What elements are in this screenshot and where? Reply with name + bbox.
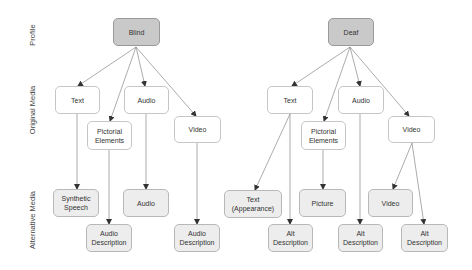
node-d-audio-ad: Alt Description: [338, 224, 383, 252]
node-b-synth: Synthetic Speech: [53, 189, 99, 217]
node-label: Deaf: [344, 28, 359, 37]
node-label: Video: [403, 125, 421, 134]
node-d-text-ad: Alt Description: [268, 224, 313, 252]
node-d-video-ad: Alt Description: [401, 224, 448, 252]
node-label: Blind: [129, 28, 145, 37]
node-label: Text: [71, 96, 84, 105]
node-b-pict: Pictorial Elements: [87, 121, 132, 150]
node-deaf: Deaf: [328, 18, 374, 46]
node-label: Picture: [312, 199, 334, 208]
row-label-alternative: Alternative Media: [28, 191, 37, 249]
node-b-video-ad: Audio Description: [174, 224, 220, 252]
node-b-video: Video: [174, 116, 221, 143]
edge-blind-to-b_audio: [136, 47, 145, 86]
row-label-profile: Profile: [28, 24, 37, 45]
node-label: Synthetic Speech: [62, 194, 91, 212]
node-b-audio: Audio: [124, 86, 169, 114]
node-label: Pictorial Elements: [95, 127, 124, 145]
node-d-video-alt: Video: [368, 189, 413, 217]
node-label: Video: [382, 199, 400, 208]
edge-deaf-to-d_text: [292, 47, 350, 86]
node-label: Video: [189, 125, 207, 134]
node-label: Pictorial Elements: [309, 127, 338, 145]
node-label: Alt Description: [273, 229, 308, 247]
edge-d_video-to-d_video_ad: [412, 143, 424, 224]
node-d-picture: Picture: [299, 189, 346, 217]
node-label: Audio: [352, 96, 370, 105]
node-b-text: Text: [55, 86, 100, 114]
node-blind: Blind: [113, 18, 160, 46]
edge-blind-to-b_text: [78, 47, 136, 86]
edge-d_video-to-d_video_alt: [393, 143, 412, 189]
node-d-video: Video: [388, 116, 435, 143]
node-b-pict-ad: Audio Description: [86, 224, 132, 252]
node-d-text-app: Text (Appearance): [224, 190, 282, 218]
node-label: Audio Description: [179, 229, 214, 247]
node-label: Text (Appearance): [232, 195, 274, 213]
edge-d_text-to-d_text_app: [255, 114, 290, 190]
node-d-pict: Pictorial Elements: [301, 121, 346, 150]
node-b-audio-alt: Audio: [123, 189, 169, 217]
node-label: Audio: [138, 96, 156, 105]
node-label: Audio Description: [91, 229, 126, 247]
row-label-original: Original Media: [28, 86, 37, 134]
node-label: Text: [284, 96, 297, 105]
node-label: Alt Description: [343, 229, 378, 247]
node-d-text: Text: [267, 86, 313, 114]
node-label: Audio: [137, 199, 155, 208]
node-label: Alt Description: [407, 229, 442, 247]
node-d-audio: Audio: [338, 86, 384, 114]
